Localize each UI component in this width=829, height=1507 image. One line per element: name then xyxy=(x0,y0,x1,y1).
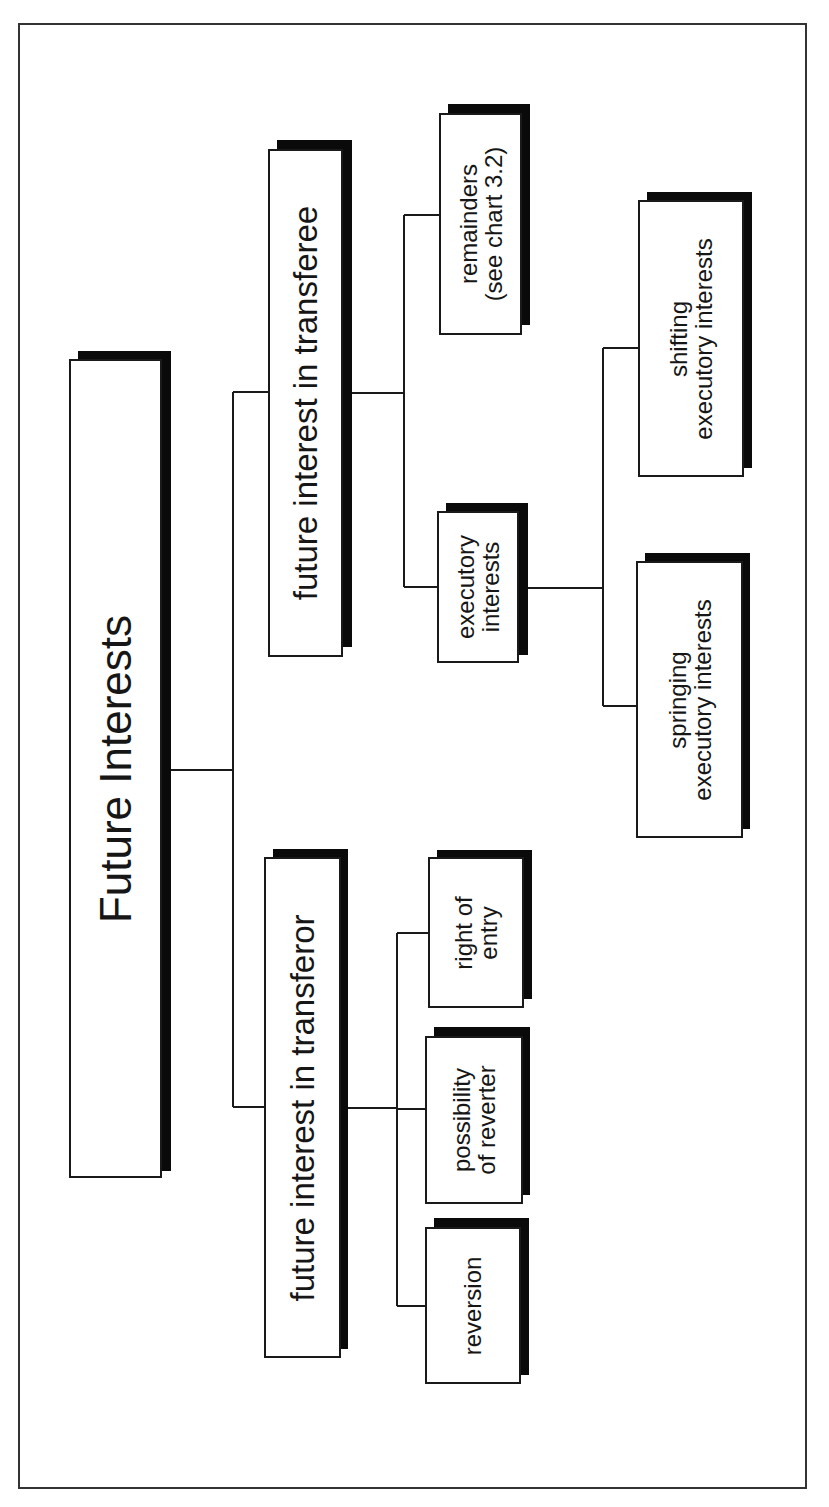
label-possibility-of-reverter: possibility of reverter xyxy=(449,1065,499,1174)
label-line: possibility xyxy=(449,1065,474,1174)
label-right-of-entry: right of entry xyxy=(451,896,501,969)
box-springing-executory: springing executory interests xyxy=(636,561,743,838)
box-possibility-of-reverter: possibility of reverter xyxy=(425,1036,523,1204)
box-right-of-entry: right of entry xyxy=(428,857,524,1008)
box-transferor: future interest in transferor xyxy=(264,857,341,1358)
label-line: of reverter xyxy=(474,1065,499,1174)
box-future-interests: Future Interests xyxy=(69,359,162,1178)
label-future-interests: Future Interests xyxy=(92,614,138,922)
box-executory-interests: executory interests xyxy=(437,511,519,663)
label-line: executory interests xyxy=(691,238,716,439)
label-line: executory interests xyxy=(690,599,715,800)
box-remainders: remainders (see chart 3.2) xyxy=(439,113,522,335)
label-shifting-executory: shifting executory interests xyxy=(666,238,716,439)
label-transferee: future interest in transferee xyxy=(288,206,323,600)
label-line: right of xyxy=(451,896,476,969)
box-transferee: future interest in transferee xyxy=(268,149,343,657)
label-line: executory xyxy=(453,535,478,639)
label-remainders: remainders (see chart 3.2) xyxy=(455,147,505,302)
label-line: (see chart 3.2) xyxy=(481,147,506,302)
label-springing-executory: springing executory interests xyxy=(664,599,714,800)
label-line: entry xyxy=(476,896,501,969)
label-transferor: future interest in transferor xyxy=(285,914,320,1301)
label-line: shifting xyxy=(666,238,691,439)
label-line: springing xyxy=(664,599,689,800)
box-reversion: reversion xyxy=(425,1227,521,1384)
label-line: remainders xyxy=(455,147,480,302)
label-reversion: reversion xyxy=(460,1256,485,1355)
label-line: reversion xyxy=(460,1256,485,1355)
label-line: interests xyxy=(478,535,503,639)
label-executory-interests: executory interests xyxy=(453,535,503,639)
box-shifting-executory: shifting executory interests xyxy=(638,200,744,477)
